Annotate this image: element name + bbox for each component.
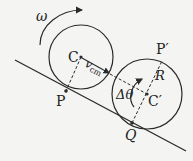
- label-c-prime: C′: [148, 93, 162, 109]
- label-p: P: [56, 93, 65, 109]
- vcm-sub: cm: [88, 65, 103, 79]
- rolling-wheel-diagram: ω C vcm P P′ R Δθ C′ Q: [0, 0, 193, 161]
- label-q: Q: [125, 127, 137, 143]
- omega-label: ω: [36, 8, 48, 24]
- label-r: R: [154, 68, 165, 83]
- label-c: C: [68, 49, 79, 65]
- label-p-prime: P′: [156, 41, 169, 57]
- label-delta-theta: Δθ: [115, 87, 133, 102]
- point-q-dot: [130, 121, 134, 125]
